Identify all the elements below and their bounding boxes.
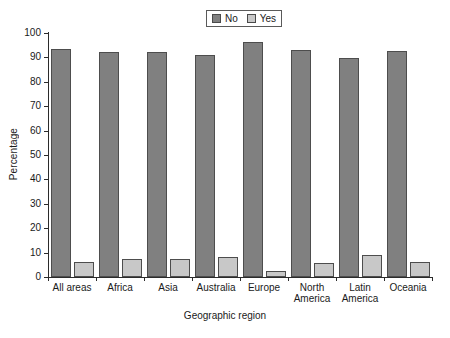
y-axis-tick: 20 — [44, 228, 48, 229]
y-axis-title: Percentage — [8, 128, 22, 180]
y-axis-tick: 100 — [44, 33, 48, 34]
bar-yes — [218, 257, 238, 277]
x-axis-category-label: Europe — [240, 282, 288, 293]
bar-yes — [170, 259, 190, 277]
bar-group — [147, 33, 190, 277]
y-axis-line — [48, 32, 49, 278]
bar-group — [339, 33, 382, 277]
x-axis-tick — [384, 277, 385, 281]
y-axis-tick: 40 — [44, 179, 48, 180]
x-axis-category-label: Latin America — [336, 282, 384, 304]
x-axis-category-label: All areas — [48, 282, 96, 293]
x-axis-category-label: Australia — [192, 282, 240, 293]
y-axis-tick: 80 — [44, 82, 48, 83]
y-axis-tick-label: 90 — [30, 51, 41, 62]
x-axis-tick — [432, 277, 433, 281]
bar-group — [99, 33, 142, 277]
y-axis-tick: 60 — [44, 131, 48, 132]
y-axis-tick-label: 10 — [30, 247, 41, 258]
y-axis-tick: 70 — [44, 106, 48, 107]
bar-no — [291, 50, 311, 277]
bar-yes — [266, 271, 286, 277]
bar-no — [243, 42, 263, 277]
plot-area: 0102030405060708090100 All areasAfricaAs… — [48, 33, 432, 277]
legend-entry-yes: Yes — [247, 14, 276, 24]
bar-yes — [74, 262, 94, 277]
legend-entry-no: No — [212, 14, 238, 24]
y-axis-tick-label: 70 — [30, 100, 41, 111]
bar-group — [195, 33, 238, 277]
legend-label-yes: Yes — [260, 14, 276, 24]
bar-no — [387, 51, 407, 277]
legend-swatch-no — [212, 14, 221, 23]
bar-yes — [122, 259, 142, 277]
bar-group — [243, 33, 286, 277]
y-axis-tick-label: 20 — [30, 222, 41, 233]
y-axis-tick-label: 0 — [35, 271, 41, 282]
x-axis-tick — [96, 277, 97, 281]
y-axis-tick: 90 — [44, 57, 48, 58]
y-axis-tick-label: 30 — [30, 198, 41, 209]
bar-yes — [410, 262, 430, 277]
y-axis-tick-label: 60 — [30, 125, 41, 136]
y-axis-tick: 30 — [44, 204, 48, 205]
y-axis-tick: 50 — [44, 155, 48, 156]
x-axis-tick — [288, 277, 289, 281]
x-axis-category-label: Asia — [144, 282, 192, 293]
y-axis-tick-label: 40 — [30, 173, 41, 184]
bar-group — [387, 33, 430, 277]
legend-swatch-yes — [247, 14, 256, 23]
bar-no — [51, 49, 71, 277]
x-axis-title: Geographic region — [0, 310, 450, 321]
x-axis-category-label: Oceania — [384, 282, 432, 293]
x-axis-tick — [144, 277, 145, 281]
bar-group — [291, 33, 334, 277]
bar-yes — [314, 263, 334, 277]
bar-yes — [362, 255, 382, 277]
bar-no — [339, 58, 359, 277]
y-axis-tick-label: 50 — [30, 149, 41, 160]
y-axis-tick: 10 — [44, 253, 48, 254]
x-axis-tick — [336, 277, 337, 281]
bar-chart: No Yes Percentage Geographic region 0102… — [0, 0, 450, 338]
y-axis-tick-label: 80 — [30, 76, 41, 87]
bar-no — [195, 55, 215, 277]
chart-legend: No Yes — [206, 10, 282, 27]
bar-no — [99, 52, 119, 277]
legend-label-no: No — [225, 14, 238, 24]
x-axis-tick — [240, 277, 241, 281]
x-axis-category-label: Africa — [96, 282, 144, 293]
bar-group — [51, 33, 94, 277]
bar-no — [147, 52, 167, 277]
x-axis-tick — [48, 277, 49, 281]
x-axis-tick — [192, 277, 193, 281]
x-axis-category-label: North America — [288, 282, 336, 304]
y-axis-tick-label: 100 — [24, 27, 41, 38]
